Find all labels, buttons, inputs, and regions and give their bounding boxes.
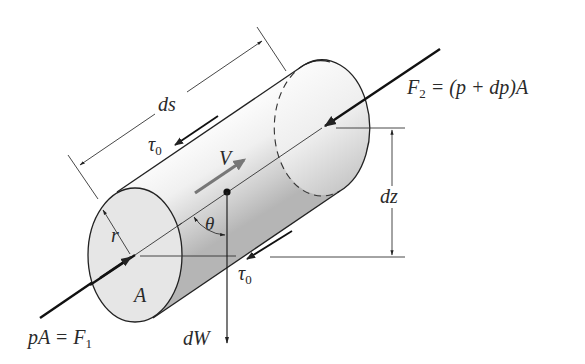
diagram-canvas: ds τ0 τ0 V r θ A dz dW pA = F1 F2 = (p +…	[0, 0, 585, 364]
theta-label: θ	[205, 213, 214, 234]
force-f1-subscript: 1	[86, 336, 93, 351]
force-f2-label: F2 = (p + dp)A	[406, 76, 529, 101]
radius-label: r	[111, 224, 119, 246]
force-f1-label: pA = F1	[26, 326, 92, 351]
shear-bottom-subscript: 0	[245, 272, 252, 287]
fluid-element-diagram: ds τ0 τ0 V r θ A dz dW pA = F1 F2 = (p +…	[0, 0, 585, 364]
force-f2-expression: = (p + dp)A	[426, 76, 529, 99]
force-f2-symbol: F	[406, 76, 420, 98]
ds-label: ds	[158, 93, 176, 115]
shear-bottom-label: τ0	[238, 262, 252, 287]
ds-dimension-line-right	[187, 41, 262, 92]
ds-extension-right	[257, 27, 286, 71]
shear-top-subscript: 0	[155, 143, 162, 158]
area-label: A	[132, 284, 147, 306]
weight-label: dW	[183, 327, 212, 349]
shear-top-label: τ0	[148, 133, 162, 158]
dz-label: dz	[380, 185, 398, 207]
ds-extension-left	[68, 155, 98, 199]
force-f1-text: pA = F	[26, 326, 86, 349]
ds-dimension-line-left	[80, 114, 155, 165]
